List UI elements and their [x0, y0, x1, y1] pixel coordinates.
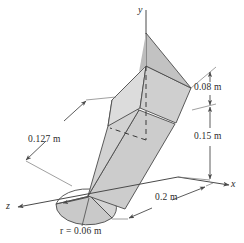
- dimension-label-radius: r = 0.06 m: [60, 226, 102, 236]
- dimension-line-015: [178, 107, 210, 180]
- dim-arrow-02-left: [129, 208, 152, 218]
- ext-line-0127-top: [86, 97, 116, 100]
- dimension-label-02: 0.2 m: [155, 192, 178, 202]
- dimension-label-015: 0.15 m: [194, 131, 222, 141]
- axis-label-y: y: [138, 4, 142, 15]
- axis-label-x: x: [231, 178, 235, 189]
- apex-triangle-shadow: [139, 33, 146, 72]
- x-axis-line: [178, 177, 229, 185]
- diagram-svg: [0, 0, 244, 243]
- ext-line-02-right: [206, 183, 213, 186]
- dimension-label-008: 0.08 m: [194, 82, 222, 92]
- axis-label-z: z: [6, 200, 10, 211]
- dimension-label-0127: 0.127 m: [28, 134, 61, 144]
- figure-canvas: y x z 0.08 m 0.15 m 0.127 m 0.2 m r = 0.…: [0, 0, 244, 243]
- ext-line-008-bottom: [192, 104, 216, 110]
- dim-arrow-0127-upper: [64, 101, 86, 121]
- ext-line-0127-bottom: [26, 161, 72, 186]
